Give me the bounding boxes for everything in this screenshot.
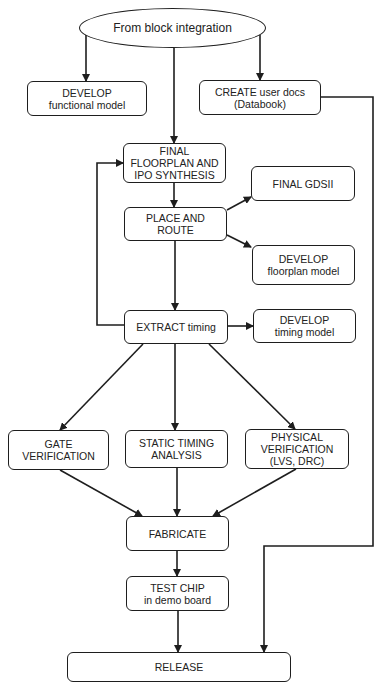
node-label: PHYSICAL bbox=[271, 431, 323, 443]
node-develop-timing: DEVELOPtiming model bbox=[253, 309, 356, 343]
node-label: RELEASE bbox=[155, 661, 203, 673]
node-label: in demo board bbox=[144, 594, 211, 606]
node-label: ROUTE bbox=[157, 224, 194, 236]
node-label: FABRICATE bbox=[149, 528, 207, 540]
node-label: (LVS, DRC) bbox=[270, 455, 325, 467]
node-label: (Databook) bbox=[234, 98, 286, 110]
node-release: RELEASE bbox=[67, 652, 291, 682]
node-label: VERIFICATION bbox=[261, 443, 334, 455]
node-label: VERIFICATION bbox=[22, 450, 95, 462]
node-label: functional model bbox=[49, 99, 125, 111]
node-label: GATE bbox=[45, 438, 73, 450]
node-label: floorplan model bbox=[268, 265, 340, 277]
node-extract-timing: EXTRACT timing bbox=[124, 310, 228, 344]
node-label: ANALYSIS bbox=[151, 449, 202, 461]
node-test-chip: TEST CHIPin demo board bbox=[126, 576, 229, 611]
node-gate-verification: GATEVERIFICATION bbox=[8, 430, 109, 470]
node-label: CREATE user docs bbox=[215, 86, 305, 98]
edge-extract-timing-to-gate bbox=[60, 344, 143, 430]
edge-extract-timing-feedback bbox=[97, 163, 124, 325]
edge-place-route-to-develop-floorplan bbox=[227, 235, 251, 247]
node-label: FINAL bbox=[160, 145, 190, 157]
edge-extract-timing-to-physical bbox=[209, 344, 295, 429]
node-develop-functional: DEVELOPfunctional model bbox=[27, 81, 147, 116]
node-label: STATIC TIMING bbox=[139, 437, 214, 449]
node-label: FLOORPLAN AND bbox=[130, 157, 218, 169]
node-final-gdsii: FINAL GDSII bbox=[251, 166, 355, 201]
node-label: PLACE AND bbox=[146, 212, 205, 224]
node-physical-verification: PHYSICALVERIFICATION(LVS, DRC) bbox=[245, 429, 349, 469]
edge-gate-to-fabricate bbox=[60, 470, 142, 516]
node-create-docs: CREATE user docs(Databook) bbox=[199, 80, 321, 115]
node-label: DEVELOP bbox=[280, 314, 330, 326]
node-final-floorplan: FINALFLOORPLAN ANDIPO SYNTHESIS bbox=[123, 143, 226, 183]
node-fabricate: FABRICATE bbox=[126, 516, 229, 551]
node-label: TEST CHIP bbox=[150, 582, 205, 594]
node-label: FINAL GDSII bbox=[273, 178, 334, 190]
edge-physical-to-fabricate bbox=[213, 469, 296, 516]
node-place-route: PLACE ANDROUTE bbox=[124, 207, 227, 241]
node-static-timing: STATIC TIMINGANALYSIS bbox=[125, 430, 228, 468]
node-label: DEVELOP bbox=[62, 87, 112, 99]
node-label: IPO SYNTHESIS bbox=[134, 169, 215, 181]
node-start: From block integration bbox=[79, 8, 266, 48]
node-label: DEVELOP bbox=[279, 253, 329, 265]
edge-place-route-to-final-gdsii bbox=[227, 197, 251, 210]
node-develop-floorplan: DEVELOPfloorplan model bbox=[252, 245, 355, 285]
node-label: From block integration bbox=[113, 22, 232, 34]
node-label: EXTRACT timing bbox=[136, 321, 216, 333]
node-label: timing model bbox=[275, 326, 335, 338]
